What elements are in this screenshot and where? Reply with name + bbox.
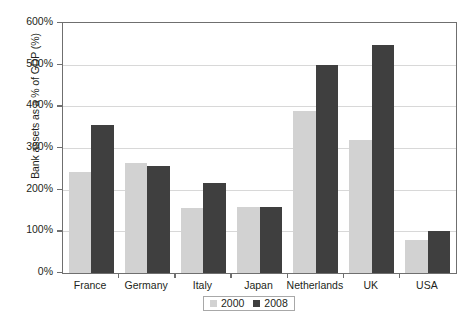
bars-layer <box>63 23 456 273</box>
x-tick-mark <box>174 273 175 278</box>
legend-swatch-2000-icon <box>210 300 217 307</box>
y-tick-label: 600% <box>26 15 53 27</box>
bar-japan-2000 <box>237 207 260 273</box>
y-tick-label: 500% <box>26 57 53 69</box>
legend-item-2008: 2008 <box>253 298 287 309</box>
bar-usa-2008 <box>428 231 451 274</box>
x-tick-mark <box>230 273 231 278</box>
bar-uk-2000 <box>349 140 372 273</box>
bar-netherlands-2008 <box>316 65 339 273</box>
x-axis-label-usa: USA <box>399 279 455 291</box>
bar-germany-2000 <box>125 163 148 273</box>
legend-swatch-2008-icon <box>253 300 260 307</box>
x-tick-mark <box>287 273 288 278</box>
bar-france-2008 <box>91 125 114 273</box>
y-tick-label: 300% <box>26 140 53 152</box>
x-tick-mark <box>399 273 400 278</box>
y-tick-label: 0% <box>38 265 53 277</box>
legend-label-2000: 2000 <box>221 298 244 309</box>
x-axis-label-france: France <box>62 279 118 291</box>
plot-area <box>62 22 457 274</box>
x-axis-label-uk: UK <box>343 279 399 291</box>
bank-assets-bar-chart: Bank assets as a % of GDP (%) 0%100%200%… <box>0 0 470 321</box>
x-tick-mark <box>343 273 344 278</box>
x-axis-label-netherlands: Netherlands <box>287 279 343 291</box>
bar-france-2000 <box>69 172 92 273</box>
x-tick-mark <box>118 273 119 278</box>
bar-japan-2008 <box>260 207 283 273</box>
x-axis-label-japan: Japan <box>230 279 286 291</box>
x-axis-label-italy: Italy <box>174 279 230 291</box>
bar-italy-2000 <box>181 208 204 273</box>
legend-label-2008: 2008 <box>264 298 287 309</box>
y-tick-label: 100% <box>26 223 53 235</box>
bar-netherlands-2000 <box>293 111 316 273</box>
x-axis-label-germany: Germany <box>118 279 174 291</box>
bar-uk-2008 <box>372 45 395 273</box>
bar-italy-2008 <box>203 183 226 273</box>
bar-germany-2008 <box>147 166 170 273</box>
bar-usa-2000 <box>405 240 428 273</box>
y-tick-label: 200% <box>26 182 53 194</box>
y-tick-label: 400% <box>26 98 53 110</box>
legend-item-2000: 2000 <box>210 298 244 309</box>
legend: 2000 2008 <box>203 296 295 311</box>
